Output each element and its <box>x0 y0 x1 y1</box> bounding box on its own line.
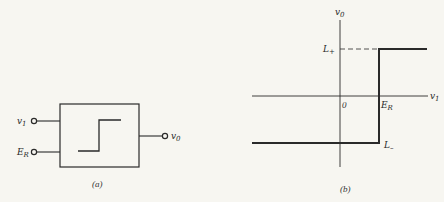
input-er-label: ER <box>16 147 30 159</box>
output-v0-label: v0 <box>171 131 181 143</box>
transfer-characteristic-plot: v0 v1 L+ L– 0 ER (b) <box>252 7 440 194</box>
step-symbol-icon <box>78 120 121 151</box>
input-er-terminal <box>31 149 36 154</box>
caption-b: (b) <box>340 184 351 194</box>
input-v1-label: v1 <box>17 116 27 128</box>
comparator-figure: v1 ER v0 (a) v0 v1 L+ L– 0 ER (b) <box>0 0 444 202</box>
output-v0-terminal <box>162 133 167 138</box>
lower-level-label: L– <box>383 140 394 152</box>
block-diagram: v1 ER v0 (a) <box>16 104 181 189</box>
upper-level-label: L+ <box>322 44 335 56</box>
threshold-label: ER <box>380 100 394 112</box>
input-v1-terminal <box>31 118 36 123</box>
x-axis-label: v1 <box>430 91 440 103</box>
caption-a: (a) <box>92 179 103 189</box>
origin-label: 0 <box>342 100 347 110</box>
y-axis-label: v0 <box>335 7 345 19</box>
